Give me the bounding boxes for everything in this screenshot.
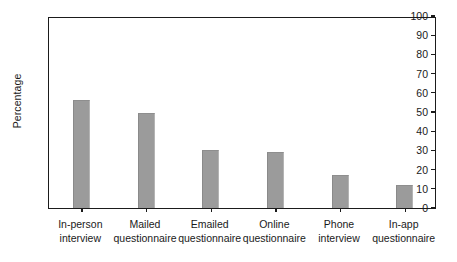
y-tick-mark bbox=[431, 92, 436, 93]
y-tick-label: 70 bbox=[416, 67, 428, 81]
y-tick-label: 40 bbox=[416, 124, 428, 138]
bar bbox=[267, 152, 284, 208]
y-tick-label: 80 bbox=[416, 47, 428, 61]
x-axis-label-line: In-app bbox=[361, 218, 447, 232]
y-tick-mark bbox=[431, 169, 436, 170]
y-tick-mark bbox=[431, 54, 436, 55]
x-tick-mark bbox=[340, 208, 341, 212]
y-tick-mark bbox=[431, 111, 436, 112]
y-tick-mark bbox=[431, 35, 436, 36]
y-tick-mark bbox=[431, 150, 436, 151]
y-tick-label: 10 bbox=[416, 182, 428, 196]
y-tick-label: 60 bbox=[416, 86, 428, 100]
bar bbox=[332, 175, 349, 208]
bar-chart: Percentage 0102030405060708090100 In-per… bbox=[0, 0, 457, 262]
y-tick-mark bbox=[431, 207, 436, 208]
y-tick-label: 100 bbox=[410, 9, 428, 23]
y-tick-label: 30 bbox=[416, 143, 428, 157]
x-axis-label-line: questionnaire bbox=[361, 232, 447, 246]
x-tick-mark bbox=[275, 208, 276, 212]
bar bbox=[138, 113, 155, 208]
x-tick-mark bbox=[405, 208, 406, 212]
x-tick-mark bbox=[211, 208, 212, 212]
y-tick-mark bbox=[431, 188, 436, 189]
y-tick-mark bbox=[431, 131, 436, 132]
y-tick-label: 20 bbox=[416, 163, 428, 177]
y-tick-label: 50 bbox=[416, 105, 428, 119]
y-tick-label: 0 bbox=[422, 201, 428, 215]
x-tick-mark bbox=[81, 208, 82, 212]
x-tick-mark bbox=[146, 208, 147, 212]
y-tick-mark bbox=[431, 73, 436, 74]
y-tick-label: 90 bbox=[416, 28, 428, 42]
y-axis-title: Percentage bbox=[11, 51, 23, 151]
x-axis-label: In-appquestionnaire bbox=[361, 218, 447, 245]
bar bbox=[73, 100, 90, 208]
plot-area: 0102030405060708090100 bbox=[48, 17, 436, 209]
bar bbox=[202, 150, 219, 208]
y-tick-mark bbox=[431, 15, 436, 16]
bar bbox=[396, 185, 413, 208]
